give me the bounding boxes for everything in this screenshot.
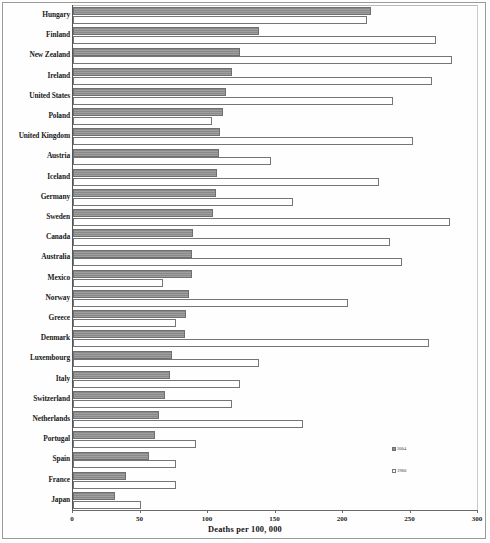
- bar-2004: [73, 452, 149, 460]
- bar-2004: [73, 7, 371, 15]
- bar-2004: [73, 250, 192, 258]
- legend-entry: 1980: [392, 468, 406, 473]
- bar-2004: [73, 169, 217, 177]
- bar-1980: [73, 157, 271, 165]
- bar-2004: [73, 351, 172, 359]
- bar-1980: [73, 198, 293, 206]
- x-tick-label: 50: [136, 515, 143, 523]
- bar-1980: [73, 440, 196, 448]
- category-label: Poland: [4, 112, 70, 120]
- bar-2004: [73, 229, 193, 237]
- category-label: New Zealand: [4, 51, 70, 59]
- bar-1980: [73, 36, 436, 44]
- category-label: Austria: [4, 152, 70, 160]
- legend-label: 1980: [397, 468, 406, 473]
- x-tick-mark: [275, 510, 276, 513]
- category-label: Norway: [4, 294, 70, 302]
- x-tick-mark: [342, 510, 343, 513]
- x-tick-label: 300: [472, 515, 483, 523]
- category-label: Australia: [4, 253, 70, 261]
- x-tick-label: 0: [70, 515, 74, 523]
- bar-1980: [73, 279, 163, 287]
- bar-2004: [73, 472, 126, 480]
- bar-1980: [73, 178, 379, 186]
- category-label: Finland: [4, 31, 70, 39]
- category-label: Denmark: [4, 334, 70, 342]
- plot-area: [72, 5, 478, 510]
- bar-2004: [73, 371, 170, 379]
- bar-2004: [73, 492, 115, 500]
- bar-1980: [73, 481, 176, 489]
- bar-1980: [73, 299, 348, 307]
- bar-1980: [73, 400, 232, 408]
- bar-2004: [73, 270, 192, 278]
- legend-swatch-hollow-icon: [392, 469, 396, 473]
- bar-1980: [73, 238, 390, 246]
- x-axis-title: Deaths per 100, 000: [0, 525, 490, 534]
- category-label: Ireland: [4, 72, 70, 80]
- category-label: United States: [4, 92, 70, 100]
- category-label: Italy: [4, 375, 70, 383]
- x-axis-ticks: 050100150200250300: [0, 513, 490, 525]
- x-tick-mark: [477, 510, 478, 513]
- bar-2004: [73, 108, 223, 116]
- category-label: Hungary: [4, 11, 70, 19]
- bar-2004: [73, 431, 155, 439]
- bar-2004: [73, 310, 186, 318]
- x-tick-label: 250: [404, 515, 415, 523]
- x-tick-mark: [72, 510, 73, 513]
- bar-2004: [73, 68, 232, 76]
- x-tick-label: 200: [337, 515, 348, 523]
- bar-2004: [73, 411, 159, 419]
- bar-2004: [73, 290, 189, 298]
- bar-1980: [73, 77, 432, 85]
- bar-2004: [73, 149, 219, 157]
- category-label: Luxembourg: [4, 354, 70, 362]
- x-tick-label: 150: [269, 515, 280, 523]
- bar-2004: [73, 88, 226, 96]
- category-label: Spain: [4, 455, 70, 463]
- bar-2004: [73, 128, 220, 136]
- x-tick-mark: [207, 510, 208, 513]
- bar-1980: [73, 97, 393, 105]
- bar-1980: [73, 16, 367, 24]
- bar-1980: [73, 380, 240, 388]
- bar-2004: [73, 209, 213, 217]
- bar-1980: [73, 501, 141, 509]
- bar-1980: [73, 137, 413, 145]
- category-label: Portugal: [4, 435, 70, 443]
- legend-label: 2004: [397, 446, 406, 451]
- category-label: Canada: [4, 233, 70, 241]
- bar-1980: [73, 258, 402, 266]
- chart-page: HungaryFinlandNew ZealandIrelandUnited S…: [0, 0, 490, 543]
- category-label: Japan: [4, 496, 70, 504]
- category-label: Iceland: [4, 173, 70, 181]
- bar-2004: [73, 48, 240, 56]
- bar-1980: [73, 339, 429, 347]
- category-label: Switzerland: [4, 395, 70, 403]
- x-tick-label: 100: [202, 515, 213, 523]
- bar-1980: [73, 56, 452, 64]
- bar-1980: [73, 319, 176, 327]
- legend-entry: 2004: [392, 446, 406, 451]
- bar-1980: [73, 460, 176, 468]
- category-axis-labels: HungaryFinlandNew ZealandIrelandUnited S…: [4, 4, 70, 509]
- x-tick-mark: [410, 510, 411, 513]
- bar-2004: [73, 189, 216, 197]
- bar-2004: [73, 330, 185, 338]
- bar-1980: [73, 359, 259, 367]
- bar-2004: [73, 391, 165, 399]
- x-tick-mark: [140, 510, 141, 513]
- bar-2004: [73, 27, 259, 35]
- bar-1980: [73, 420, 303, 428]
- legend-swatch-filled-icon: [392, 447, 396, 451]
- category-label: France: [4, 476, 70, 484]
- category-label: United Kingdom: [4, 132, 70, 140]
- category-label: Mexico: [4, 274, 70, 282]
- category-label: Sweden: [4, 213, 70, 221]
- category-label: Netherlands: [4, 415, 70, 423]
- bar-1980: [73, 218, 450, 226]
- category-label: Germany: [4, 193, 70, 201]
- bar-1980: [73, 117, 212, 125]
- category-label: Greece: [4, 314, 70, 322]
